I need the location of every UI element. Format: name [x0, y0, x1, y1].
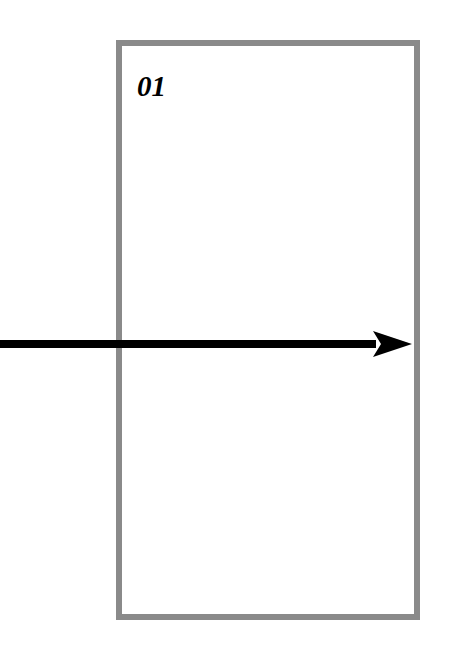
arrow-shaft	[0, 340, 376, 348]
diagram-figure	[0, 0, 449, 653]
slide-number-label: 01	[137, 72, 166, 101]
rectangle-outline	[119, 43, 417, 617]
slide-canvas: 01	[0, 0, 449, 653]
